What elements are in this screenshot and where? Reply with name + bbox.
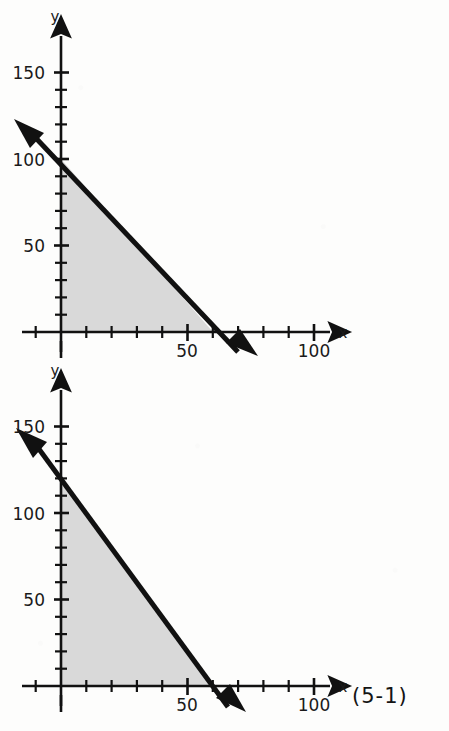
line-arrow-lower-right-bottom	[216, 684, 246, 712]
y-tick-label-100: 100	[13, 150, 45, 170]
y-tick-label-150: 150	[13, 63, 45, 83]
y-axis-name-bottom: y	[51, 362, 60, 380]
x-tick-label-100: 100	[298, 695, 330, 715]
y-tick-label-150: 150	[13, 417, 45, 437]
y-axis-name-top: y	[51, 8, 60, 26]
y-tick-label-50: 50	[23, 590, 45, 610]
graph-figure-top: 150 100 50 50 100 y x	[0, 0, 449, 366]
figure-page: 150 100 50 50 100 y x	[0, 0, 449, 731]
y-tick-label-50: 50	[23, 236, 45, 256]
x-axis-name-bottom: x	[339, 678, 348, 696]
x-tick-label-50: 50	[176, 695, 198, 715]
figure-caption: (5-1)	[352, 684, 408, 708]
x-tick-label-50: 50	[176, 341, 198, 361]
x-tick-label-100: 100	[298, 341, 330, 361]
x-axis-name-top: x	[339, 324, 348, 342]
y-tick-label-100: 100	[13, 504, 45, 524]
graph-figure-bottom: 150 100 50 50 100 y x	[0, 360, 449, 731]
